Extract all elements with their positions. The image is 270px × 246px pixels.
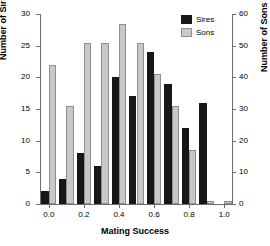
right-ticklabel: 30: [239, 105, 261, 113]
right-axis-title: Number of Sons: [259, 2, 269, 72]
bar-sons: [66, 106, 73, 204]
legend-label-sires: Sires: [196, 15, 214, 24]
bar-sires: [199, 103, 206, 204]
right-ticklabel: 10: [239, 168, 261, 176]
bar-sons: [84, 43, 91, 205]
bar-sons: [119, 24, 126, 205]
right-ticklabel: 20: [239, 137, 261, 145]
plot-area: [40, 14, 233, 205]
legend-label-sons: Sons: [196, 28, 214, 37]
bottom-tick: [119, 204, 120, 208]
left-ticklabel: 10: [8, 137, 30, 145]
bar-sires: [112, 77, 119, 204]
bottom-ticklabel: 0.0: [34, 211, 64, 219]
legend-item-sons: Sons: [181, 27, 214, 37]
left-ticklabel: 0: [8, 200, 30, 208]
left-ticklabel: 20: [8, 73, 30, 81]
bottom-axis-line: [40, 204, 233, 205]
bottom-ticklabel: 0.2: [69, 211, 99, 219]
bar-sons: [207, 201, 214, 204]
bar-sires: [94, 166, 101, 204]
left-ticklabel: 5: [8, 168, 30, 176]
right-ticklabel: 50: [239, 42, 261, 50]
bottom-ticklabel: 0.8: [174, 211, 204, 219]
right-tick: [232, 204, 236, 205]
bottom-ticklabel: 0.6: [139, 211, 169, 219]
left-ticklabel: 15: [8, 105, 30, 113]
bar-sires: [41, 191, 48, 204]
bar-sons: [224, 201, 231, 204]
right-ticklabel: 60: [239, 10, 261, 18]
bottom-tick: [224, 204, 225, 208]
left-ticklabel: 25: [8, 42, 30, 50]
bar-sons: [172, 106, 179, 204]
bar-sires: [59, 179, 66, 204]
bottom-tick: [189, 204, 190, 208]
right-ticklabel: 0: [239, 200, 261, 208]
dark-swatch-icon: [181, 15, 192, 24]
chart-figure: 051015202530 0102030405060 0.00.20.40.60…: [0, 0, 270, 246]
left-axis-title: Number of Sires: [0, 0, 8, 60]
bottom-ticklabel: 1.0: [209, 211, 239, 219]
bar-sons: [49, 65, 56, 204]
x-axis-title: Mating Success: [0, 226, 270, 236]
bar-sires: [182, 128, 189, 204]
bottom-ticklabel: 0.4: [104, 211, 134, 219]
bottom-tick: [49, 204, 50, 208]
bottom-tick: [84, 204, 85, 208]
bottom-tick: [154, 204, 155, 208]
bar-sires: [129, 96, 136, 204]
bar-sons: [154, 74, 161, 204]
light-swatch-icon: [181, 28, 192, 37]
legend-item-sires: Sires: [181, 14, 214, 24]
bar-sires: [164, 84, 171, 204]
left-tick: [36, 204, 40, 205]
bar-sires: [147, 52, 154, 204]
bar-group: [40, 14, 233, 204]
left-ticklabel: 30: [8, 10, 30, 18]
bar-sons: [101, 43, 108, 205]
bar-sons: [189, 150, 196, 204]
right-ticklabel: 40: [239, 73, 261, 81]
bar-sires: [77, 153, 84, 204]
bar-sons: [137, 43, 144, 205]
chart-legend: Sires Sons: [181, 14, 214, 40]
